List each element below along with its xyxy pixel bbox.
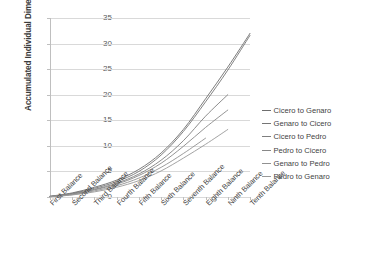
chart-legend: Cicero to GenaroGenaro to CiceroCicero t…: [262, 104, 366, 183]
legend-item[interactable]: Cicero to Pedro: [262, 130, 366, 143]
y-axis-title: Accumulated Individual Dimension: [24, 0, 33, 133]
legend-item[interactable]: Cicero to Genaro: [262, 104, 366, 117]
legend-label: Cicero to Pedro: [274, 132, 327, 141]
legend-item[interactable]: Pedro to Genaro: [262, 170, 366, 183]
legend-line-icon: [262, 123, 271, 124]
legend-label: Pedro to Genaro: [274, 172, 330, 181]
legend-line-icon: [262, 176, 271, 177]
legend-label: Cicero to Genaro: [274, 106, 332, 115]
legend-label: Genaro to Cicero: [274, 119, 332, 128]
legend-label: Genaro to Pedro: [274, 159, 330, 168]
legend-line-icon: [262, 136, 271, 137]
legend-item[interactable]: Genaro to Cicero: [262, 117, 366, 130]
legend-item[interactable]: Genaro to Pedro: [262, 157, 366, 170]
legend-line-icon: [262, 150, 271, 151]
legend-line-icon: [262, 110, 271, 111]
legend-item[interactable]: Pedro to Cicero: [262, 144, 366, 157]
legend-line-icon: [262, 163, 271, 164]
legend-label: Pedro to Cicero: [274, 146, 327, 155]
chart-container: Accumulated Individual Dimension 0510152…: [0, 0, 366, 280]
